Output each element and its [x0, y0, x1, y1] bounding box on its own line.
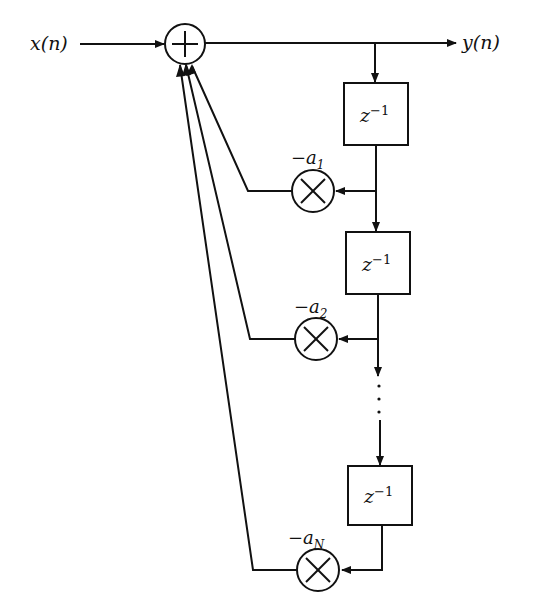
ellipsis-dots — [377, 384, 380, 413]
block-diagram — [0, 0, 534, 616]
delay-label-2: z−1 — [362, 252, 391, 275]
delay-label-3: z−1 — [364, 484, 393, 507]
coef-label-N: −aN — [288, 527, 324, 552]
delay-label-1: z−1 — [360, 103, 389, 126]
output-label: y(n) — [462, 31, 500, 53]
coef-label-1: −a1 — [291, 147, 324, 172]
input-label: x(n) — [30, 32, 68, 54]
coef-label-2: −a2 — [294, 296, 327, 321]
